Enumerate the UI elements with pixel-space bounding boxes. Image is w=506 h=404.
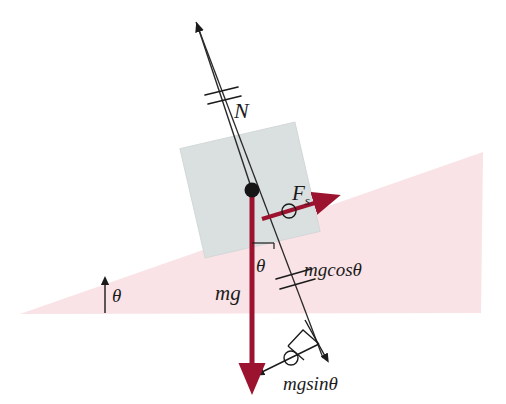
center-of-mass-dot	[245, 183, 260, 198]
normal-force-label: N	[233, 98, 250, 123]
incline-angle-label: θ	[112, 285, 121, 306]
mgsin-label: mgsinθ	[283, 373, 338, 394]
friction-force-label-sub: s	[305, 193, 310, 208]
mgcos-label: mgcosθ	[304, 259, 362, 280]
physics-diagram-canvas: N Fs mg θ mgcosθ mgsinθ θ	[0, 0, 506, 404]
diagram-svg: N Fs mg θ mgcosθ mgsinθ θ	[0, 0, 506, 404]
weight-angle-label: θ	[256, 255, 265, 276]
mgcos-component-arrow	[305, 320, 325, 356]
weight-label: mg	[215, 281, 241, 305]
friction-force-label-main: F	[291, 181, 305, 205]
